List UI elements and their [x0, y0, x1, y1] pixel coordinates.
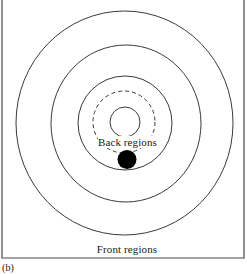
- black-dot-marker: [118, 150, 137, 169]
- innermost-ring: [110, 107, 140, 137]
- figure-frame: [2, 0, 244, 258]
- second-ring: [51, 45, 201, 202]
- front-regions-label: Front regions: [96, 243, 158, 255]
- back-regions-label: Back regions: [98, 136, 154, 148]
- panel-label: (b): [2, 262, 14, 274]
